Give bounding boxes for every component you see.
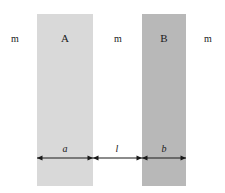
slab-b-label: B xyxy=(144,33,184,44)
dimension-l-label: l xyxy=(102,144,132,154)
dimension-arrows-layer xyxy=(0,0,225,193)
dimension-b-label: b xyxy=(149,144,179,154)
figure-canvas: A B m m m a l b xyxy=(0,0,225,193)
dimension-l-arrow xyxy=(93,155,142,160)
medium-right-label: m xyxy=(193,34,223,44)
slab-a-label: A xyxy=(45,33,85,44)
medium-left-label: m xyxy=(0,34,30,44)
medium-middle-label: m xyxy=(103,34,133,44)
dimension-a-label: a xyxy=(50,144,80,154)
